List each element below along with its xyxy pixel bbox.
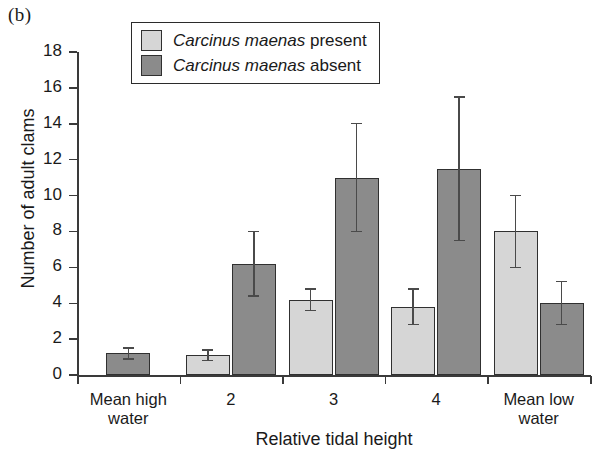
error-cap-upper-absent-group-0 <box>123 347 134 348</box>
legend-label-present: Carcinus maenas present <box>173 31 367 51</box>
y-tick-4 <box>69 303 77 305</box>
x-axis-line <box>77 375 591 377</box>
x-tick-label-0: Mean highwater <box>77 390 180 428</box>
y-tick-label-2: 2 <box>32 328 62 348</box>
x-tick-label-3: 4 <box>385 390 488 409</box>
error-cap-upper-present-group-2 <box>305 288 316 289</box>
error-cap-lower-present-group-4 <box>510 267 521 268</box>
error-bar-absent-group-1 <box>253 231 254 296</box>
x-tick-label-1: 2 <box>180 390 283 409</box>
error-bar-present-group-2 <box>310 289 311 311</box>
legend-species-present: Carcinus maenas <box>173 31 305 50</box>
y-tick-10 <box>69 195 77 197</box>
error-cap-lower-absent-group-0 <box>123 358 134 359</box>
error-cap-upper-absent-group-3 <box>454 96 465 97</box>
y-tick-2 <box>69 338 77 340</box>
x-axis-title: Relative tidal height <box>77 429 591 450</box>
y-tick-label-8: 8 <box>32 220 62 240</box>
x-tick-label-4: Mean lowwater <box>487 390 590 428</box>
error-cap-upper-absent-group-1 <box>248 231 259 232</box>
error-cap-upper-absent-group-4 <box>556 281 567 282</box>
y-tick-8 <box>69 231 77 233</box>
plot-area <box>77 52 590 375</box>
y-tick-label-12: 12 <box>32 149 62 169</box>
y-tick-12 <box>69 159 77 161</box>
y-tick-label-6: 6 <box>32 256 62 276</box>
error-cap-upper-present-group-1 <box>202 349 213 350</box>
x-tick-3 <box>385 376 387 384</box>
figure-panel-b: (b) Carcinus maenas present Carcinus mae… <box>0 0 601 460</box>
error-cap-lower-present-group-2 <box>305 310 316 311</box>
x-tick-label-2: 3 <box>282 390 385 409</box>
y-tick-label-18: 18 <box>32 41 62 61</box>
x-tick-2 <box>282 376 284 384</box>
legend-swatch-present <box>141 30 162 51</box>
error-bar-absent-group-3 <box>458 97 459 241</box>
error-cap-lower-present-group-1 <box>202 360 213 361</box>
error-cap-lower-absent-group-3 <box>454 240 465 241</box>
y-tick-label-4: 4 <box>32 292 62 312</box>
y-tick-label-10: 10 <box>32 185 62 205</box>
error-cap-upper-present-group-4 <box>510 195 521 196</box>
error-cap-lower-absent-group-2 <box>351 231 362 232</box>
error-cap-lower-absent-group-1 <box>248 295 259 296</box>
error-cap-lower-absent-group-4 <box>556 324 567 325</box>
error-bar-absent-group-4 <box>561 282 562 325</box>
y-tick-label-0: 0 <box>32 364 62 384</box>
x-tick-4 <box>487 376 489 384</box>
error-cap-lower-present-group-3 <box>408 324 419 325</box>
y-tick-6 <box>69 267 77 269</box>
error-cap-upper-absent-group-2 <box>351 123 362 124</box>
error-bar-present-group-4 <box>515 196 516 268</box>
y-tick-16 <box>69 87 77 89</box>
y-tick-0 <box>69 374 77 376</box>
y-tick-label-14: 14 <box>32 113 62 133</box>
panel-label: (b) <box>8 4 32 26</box>
legend-qualifier-present: present <box>305 31 366 50</box>
x-tick-1 <box>180 376 182 384</box>
y-tick-14 <box>69 123 77 125</box>
error-bar-present-group-3 <box>412 289 413 325</box>
error-cap-upper-present-group-3 <box>408 288 419 289</box>
y-tick-label-16: 16 <box>32 77 62 97</box>
legend-entry-present: Carcinus maenas present <box>141 28 367 53</box>
error-bar-absent-group-2 <box>356 124 357 232</box>
x-tick-5 <box>590 376 592 384</box>
y-tick-18 <box>69 51 77 53</box>
x-tick-0 <box>77 376 79 384</box>
